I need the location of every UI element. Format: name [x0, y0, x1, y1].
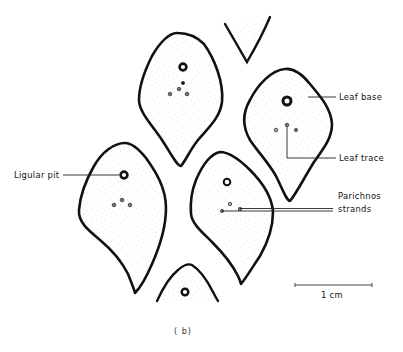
parichnos-strand — [112, 203, 116, 207]
label-ligular-pit: Ligular pit — [14, 170, 60, 180]
cushion-outline — [79, 143, 166, 293]
parichnos-strand — [168, 92, 172, 96]
leaf-cushion-bottom-partial — [157, 264, 218, 301]
cushion-outline — [191, 152, 273, 284]
panel-label: ( b) — [174, 327, 192, 336]
parichnos-strand — [274, 128, 278, 132]
label-parichnos-line2: strands — [338, 204, 371, 214]
scale-bar-label: 1 cm — [321, 290, 343, 300]
cushion-outline — [225, 17, 270, 62]
label-leaf-base: Leaf base — [339, 92, 382, 102]
cushion-outline — [139, 33, 222, 166]
parichnos-strand — [228, 202, 231, 205]
leaf-cushion-center — [191, 152, 273, 284]
parichnos-strand — [238, 207, 241, 210]
leaf-cushion-diagram: Leaf base Leaf trace Ligular pit Parichn… — [0, 0, 403, 352]
parichnos-strand — [185, 92, 189, 96]
parichnos-strand — [128, 203, 132, 207]
leaf-cushion-upper-left — [139, 33, 222, 166]
leaf-trace — [181, 81, 184, 84]
leaf-cushion-lower-left — [79, 143, 166, 293]
leaf-trace — [120, 198, 124, 202]
scale-bar: 1 cm — [295, 283, 372, 300]
leaf-trace — [285, 123, 289, 127]
parichnos-strand — [177, 87, 181, 91]
label-parichnos-line1: Parichnos — [338, 191, 381, 201]
parichnos-strand — [294, 128, 297, 131]
label-leaf-trace: Leaf trace — [339, 153, 384, 163]
leaf-cushion-top-partial — [225, 17, 270, 62]
